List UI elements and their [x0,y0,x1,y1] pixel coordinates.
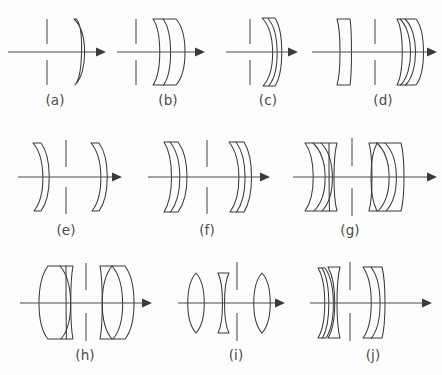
panel-a: (a) [8,19,106,108]
optical-axis-a [8,48,106,57]
panel-label-d: (d) [373,92,392,108]
optical-axis-i [178,299,285,308]
optical-axis-b [117,48,205,57]
panel-label-b: (b) [158,92,177,108]
panel-label-f: (f) [199,222,215,238]
panel-label-h: (h) [75,347,94,363]
optical-axis-d [312,48,437,57]
panel-label-a: (a) [45,92,64,108]
panel-c: (c) [226,18,298,108]
panel-label-g: (g) [340,222,359,238]
optical-axis-e [18,173,122,182]
panel-label-e: (e) [56,222,75,238]
panel-label-i: (i) [229,347,244,363]
optical-axis-c [226,48,298,57]
figure-canvas: (a) (b) [0,0,442,375]
panel-e: (e) [18,140,122,238]
optical-axis-h [20,299,152,308]
panel-label-c: (c) [259,92,277,108]
panel-i: (i) [178,262,285,363]
panel-j: (j) [310,262,432,363]
panel-label-j: (j) [366,347,381,363]
panel-h: (h) [20,263,152,363]
panel-g: (g) [293,138,437,238]
panel-b: (b) [117,19,205,108]
optical-axis-g [293,173,437,182]
panel-d: (d) [312,19,437,108]
lens-diagram-figure: (a) (b) [0,0,442,375]
panel-f: (f) [148,140,270,238]
